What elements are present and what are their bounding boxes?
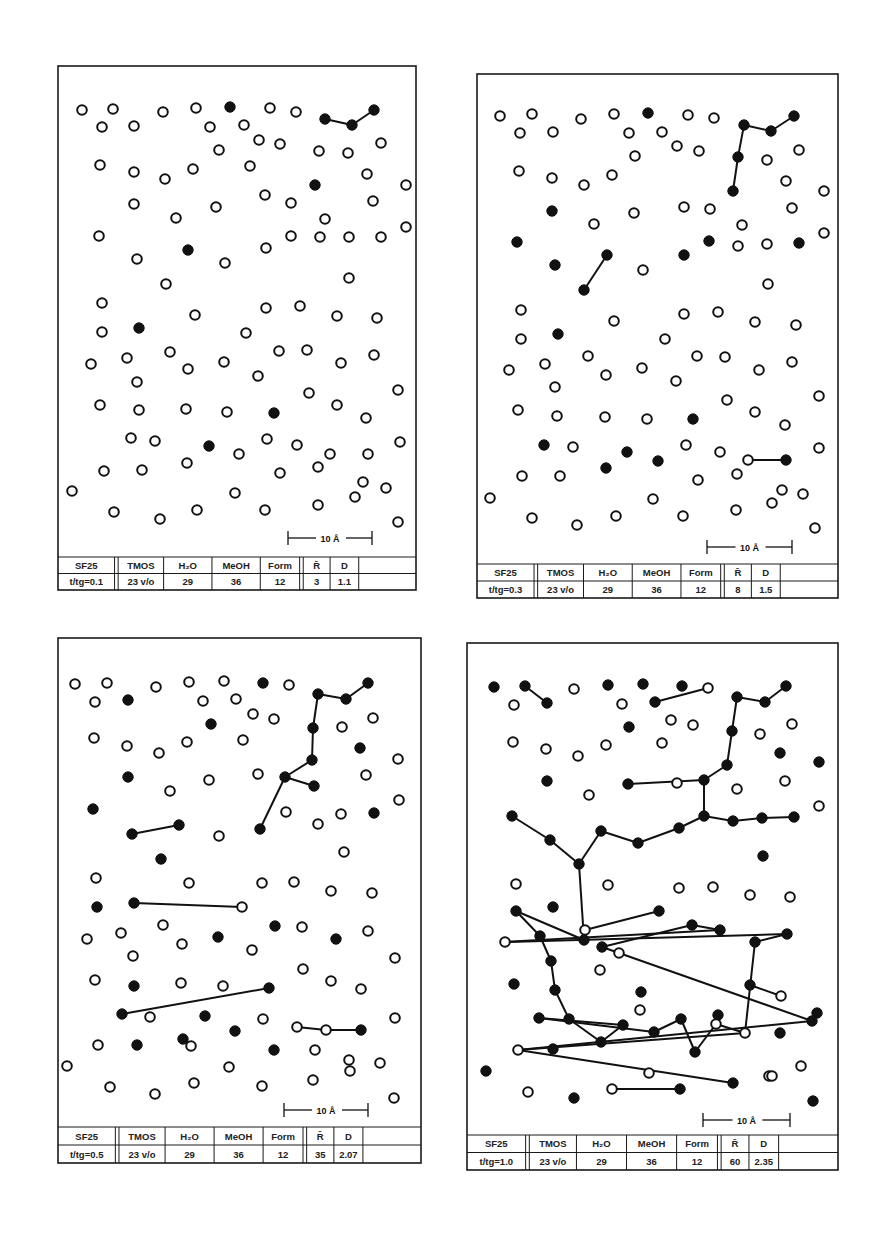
open-particle bbox=[261, 243, 271, 253]
filled-particle bbox=[230, 1026, 240, 1036]
open-particle bbox=[67, 486, 77, 496]
filled-particle bbox=[781, 455, 791, 465]
open-particle bbox=[750, 407, 760, 417]
open-particle bbox=[767, 498, 777, 508]
open-particle bbox=[762, 155, 772, 165]
bond-line bbox=[579, 831, 601, 864]
open-particle bbox=[393, 385, 403, 395]
scale-bar: 10 Å bbox=[288, 531, 372, 545]
filled-particle bbox=[269, 1045, 279, 1055]
filled-particle bbox=[654, 906, 664, 916]
open-particle bbox=[513, 1045, 523, 1055]
scale-bar-label: 10 Å bbox=[320, 534, 340, 544]
particles bbox=[485, 108, 829, 533]
open-particle bbox=[222, 407, 232, 417]
open-particle bbox=[485, 493, 495, 503]
open-particle bbox=[688, 720, 698, 730]
open-particle bbox=[750, 317, 760, 327]
open-particle bbox=[238, 735, 248, 745]
header-d: D bbox=[341, 560, 348, 571]
filled-particle bbox=[677, 681, 687, 691]
open-particle bbox=[245, 161, 255, 171]
open-particle bbox=[372, 313, 382, 323]
header-water: H₂O bbox=[592, 1138, 610, 1149]
open-particle bbox=[703, 683, 713, 693]
open-particle bbox=[184, 677, 194, 687]
filled-particle bbox=[347, 120, 357, 130]
open-particle bbox=[257, 1081, 267, 1091]
filled-particle bbox=[750, 937, 760, 947]
filled-particle bbox=[766, 126, 776, 136]
open-particle bbox=[308, 1075, 318, 1085]
open-particle bbox=[105, 1082, 115, 1092]
open-particle bbox=[745, 890, 755, 900]
open-particle bbox=[819, 228, 829, 238]
open-particle bbox=[515, 128, 525, 138]
open-particle bbox=[614, 948, 624, 958]
open-particle bbox=[743, 455, 753, 465]
open-particle bbox=[600, 412, 610, 422]
filled-particle bbox=[704, 236, 714, 246]
open-particle bbox=[389, 1093, 399, 1103]
open-particle bbox=[344, 273, 354, 283]
header-form: Form bbox=[271, 1131, 295, 1142]
filled-particle bbox=[574, 859, 584, 869]
open-particle bbox=[151, 682, 161, 692]
open-particle bbox=[777, 485, 787, 495]
header-meoh: MeOH bbox=[643, 567, 671, 578]
open-particle bbox=[313, 500, 323, 510]
open-particle bbox=[262, 434, 272, 444]
time-ratio: t/tg=0.1 bbox=[70, 576, 104, 587]
open-particle bbox=[692, 351, 702, 361]
open-particle bbox=[523, 1087, 533, 1097]
open-particle bbox=[540, 359, 550, 369]
open-particle bbox=[260, 190, 270, 200]
open-particle bbox=[708, 882, 718, 892]
filled-particle bbox=[794, 238, 804, 248]
filled-particle bbox=[534, 1013, 544, 1023]
open-particle bbox=[767, 1071, 777, 1081]
open-particle bbox=[150, 1089, 160, 1099]
open-particle bbox=[601, 740, 611, 750]
filled-particle bbox=[699, 775, 709, 785]
open-particle bbox=[108, 104, 118, 114]
meoh-value: 36 bbox=[231, 576, 242, 587]
open-particle bbox=[302, 345, 312, 355]
parameter-table: SF25TMOSH₂OMeOHFormR̄Dt/tg=0.323 v/o2936… bbox=[477, 564, 838, 598]
particles bbox=[62, 676, 404, 1103]
filled-particle bbox=[542, 776, 552, 786]
open-particle bbox=[260, 505, 270, 515]
filled-particle bbox=[520, 681, 530, 691]
open-particle bbox=[134, 405, 144, 415]
filled-particle bbox=[129, 898, 139, 908]
open-particle bbox=[791, 320, 801, 330]
filled-particle bbox=[781, 681, 791, 691]
open-particle bbox=[755, 729, 765, 739]
filled-particle bbox=[814, 757, 824, 767]
header-sample: SF25 bbox=[485, 1138, 508, 1149]
filled-particle bbox=[307, 755, 317, 765]
open-particle bbox=[648, 494, 658, 504]
panel-4: 10 ÅSF25TMOSH₂OMeOHFormR̄Dt/tg=1.023 v/o… bbox=[467, 643, 838, 1170]
open-particle bbox=[326, 886, 336, 896]
header-form: Form bbox=[268, 560, 292, 571]
open-particle bbox=[171, 213, 181, 223]
open-particle bbox=[363, 926, 373, 936]
open-particle bbox=[132, 377, 142, 387]
bond-line bbox=[260, 777, 285, 829]
open-particle bbox=[609, 109, 619, 119]
header-water: H₂O bbox=[179, 560, 197, 571]
open-particle bbox=[89, 733, 99, 743]
open-particle bbox=[394, 795, 404, 805]
open-particle bbox=[219, 357, 229, 367]
filled-particle bbox=[728, 186, 738, 196]
bond-line bbox=[602, 947, 812, 1021]
open-particle bbox=[814, 801, 824, 811]
open-particle bbox=[796, 1061, 806, 1071]
open-particle bbox=[248, 709, 258, 719]
header-form: Form bbox=[685, 1138, 709, 1149]
filled-particle bbox=[280, 772, 290, 782]
open-particle bbox=[780, 776, 790, 786]
open-particle bbox=[376, 232, 386, 242]
bond-line bbox=[584, 255, 607, 290]
